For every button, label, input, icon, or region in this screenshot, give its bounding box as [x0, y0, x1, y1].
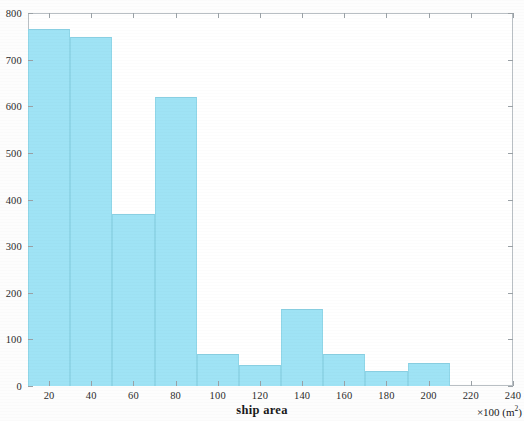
y-axis-tick-mark	[28, 13, 33, 14]
x-axis-tick-mark	[260, 381, 261, 386]
x-axis-tick-mark-top	[471, 13, 472, 18]
y-axis-tick-label: 500	[6, 147, 22, 158]
x-axis-tick-mark-top	[49, 13, 50, 18]
y-axis-tick-mark	[28, 153, 33, 154]
y-axis-tick-mark	[28, 106, 33, 107]
x-axis-tick-mark-top	[176, 13, 177, 18]
x-axis-tick-mark	[218, 381, 219, 386]
x-axis-tick-label: 40	[86, 390, 97, 401]
x-axis-tick-label: 160	[336, 390, 352, 401]
y-axis: 0100200300400500600700800	[0, 0, 26, 421]
x-axis-tick-mark-top	[429, 13, 430, 18]
x-axis-tick-mark	[344, 381, 345, 386]
x-axis-tick-mark	[471, 381, 472, 386]
histogram-bar	[112, 214, 154, 387]
x-axis-tick-label: 200	[420, 390, 436, 401]
histogram-chart: 0100200300400500600700800 20406080100120…	[0, 0, 524, 421]
y-axis-tick-mark	[28, 293, 33, 294]
x-axis-unit-close: )	[518, 406, 522, 418]
x-axis-tick-label: 100	[210, 390, 226, 401]
x-axis-title: ship area	[0, 403, 524, 418]
x-axis-unit-text: ×100 (m	[477, 406, 515, 418]
x-axis-tick-mark	[91, 381, 92, 386]
y-axis-tick-mark-right	[508, 386, 513, 387]
x-axis-tick-mark-top	[91, 13, 92, 18]
x-axis-tick-mark	[386, 381, 387, 386]
x-axis-tick-mark-top	[302, 13, 303, 18]
x-axis-tick-label: 240	[505, 390, 521, 401]
x-axis-tick-mark	[513, 381, 514, 386]
x-axis-tick-label: 80	[170, 390, 181, 401]
y-axis-tick-label: 100	[6, 334, 22, 345]
x-axis-tick-mark-top	[513, 13, 514, 18]
y-axis-tick-mark-right	[508, 200, 513, 201]
y-axis-tick-mark-right	[508, 293, 513, 294]
x-axis-tick-mark-top	[218, 13, 219, 18]
x-axis-tick-label: 220	[463, 390, 479, 401]
y-axis-tick-label: 0	[17, 381, 22, 392]
x-axis-tick-label: 180	[378, 390, 394, 401]
histogram-bar	[155, 97, 197, 386]
y-axis-tick-label: 200	[6, 287, 22, 298]
x-axis-tick-label: 140	[294, 390, 310, 401]
x-axis-tick-mark-top	[344, 13, 345, 18]
y-axis-tick-label: 400	[6, 194, 22, 205]
histogram-bar	[28, 29, 70, 386]
y-axis-tick-mark	[28, 246, 33, 247]
histogram-bars	[28, 13, 513, 386]
y-axis-tick-label: 600	[6, 101, 22, 112]
y-axis-tick-mark	[28, 60, 33, 61]
x-axis-tick-mark	[176, 381, 177, 386]
x-axis-tick-mark-top	[133, 13, 134, 18]
y-axis-tick-mark	[28, 200, 33, 201]
y-axis-tick-label: 300	[6, 241, 22, 252]
x-axis-tick-mark	[302, 381, 303, 386]
x-axis-tick-label: 20	[44, 390, 55, 401]
x-axis-tick-mark-top	[386, 13, 387, 18]
y-axis-tick-mark	[28, 386, 33, 387]
y-axis-tick-mark-right	[508, 246, 513, 247]
x-axis-tick-mark	[133, 381, 134, 386]
y-axis-tick-mark	[28, 339, 33, 340]
y-axis-tick-mark-right	[508, 153, 513, 154]
x-axis-tick-mark	[49, 381, 50, 386]
y-axis-tick-mark-right	[508, 60, 513, 61]
y-axis-tick-label: 800	[6, 8, 22, 19]
histogram-bar	[281, 309, 323, 386]
y-axis-tick-mark-right	[508, 339, 513, 340]
x-axis-tick-mark	[429, 381, 430, 386]
y-axis-tick-mark-right	[508, 106, 513, 107]
y-axis-tick-label: 700	[6, 54, 22, 65]
x-axis-tick-mark-top	[260, 13, 261, 18]
x-axis-tick-label: 120	[252, 390, 268, 401]
x-axis-unit-note: ×100 (m2)	[477, 404, 522, 418]
histogram-bar	[70, 37, 112, 386]
x-axis-tick-label: 60	[128, 390, 139, 401]
